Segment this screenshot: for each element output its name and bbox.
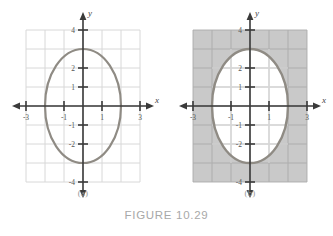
y-tick-label--2-b: -2 <box>236 140 242 149</box>
panel-a: -3 -1 1 3 4 2 1 -1 -2 -4 x y <box>0 0 166 200</box>
y-axis-a <box>80 12 87 198</box>
x-tick-label--1-a: -1 <box>61 113 67 122</box>
figure-label: FIGURE 10.29 <box>0 209 333 221</box>
y-axis-letter-a: y <box>87 8 92 18</box>
x-axis-letter-b: x <box>321 95 326 105</box>
plot-b: -3 -1 1 3 4 2 1 -1 -2 -4 x y <box>167 0 333 200</box>
panel-caption-b: (b) <box>167 188 333 198</box>
y-tick-label--4-a: -4 <box>69 178 75 187</box>
y-tick-label-4-a: 4 <box>71 26 75 35</box>
x-tick-label-3-a: 3 <box>138 113 142 122</box>
x-tick-label-1-a: 1 <box>100 113 104 122</box>
y-tick-label-2-b: 2 <box>238 64 242 73</box>
x-axis-letter-a: x <box>154 95 159 105</box>
y-tick-label--1-a: -1 <box>69 121 75 130</box>
x-tick-label--1-b: -1 <box>228 113 234 122</box>
y-tick-label--2-a: -2 <box>69 140 75 149</box>
x-tick-label--3-a: -3 <box>23 113 29 122</box>
y-axis-letter-b: y <box>254 8 259 18</box>
y-tick-label-4-b: 4 <box>238 26 242 35</box>
panel-b: -3 -1 1 3 4 2 1 -1 -2 -4 x y <box>167 0 333 200</box>
y-tick-label--4-b: -4 <box>236 178 242 187</box>
panel-caption-a: (a) <box>0 188 166 198</box>
y-tick-label--1-b: -1 <box>236 121 242 130</box>
figure-container: -3 -1 1 3 4 2 1 -1 -2 -4 x y <box>0 0 333 236</box>
x-tick-label-1-b: 1 <box>267 113 271 122</box>
x-tick-label-3-b: 3 <box>305 113 309 122</box>
y-tick-label-1-b: 1 <box>238 83 242 92</box>
plot-a: -3 -1 1 3 4 2 1 -1 -2 -4 x y <box>0 0 166 200</box>
y-tick-label-2-a: 2 <box>71 64 75 73</box>
x-tick-label--3-b: -3 <box>190 113 196 122</box>
y-tick-label-1-a: 1 <box>71 83 75 92</box>
